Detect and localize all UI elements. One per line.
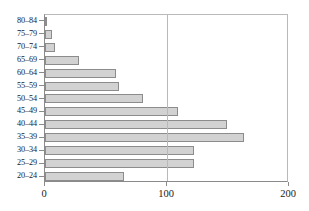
x-axis-tick: [288, 182, 289, 186]
y-axis-tick: [39, 20, 44, 21]
bar: [45, 146, 194, 155]
y-axis-label: 70–74: [17, 42, 37, 51]
bar: [45, 17, 47, 26]
y-axis-label: 20–24: [17, 171, 37, 180]
y-axis-label: 75–79: [17, 29, 37, 38]
gridline: [167, 15, 168, 181]
y-axis-tick: [39, 59, 44, 60]
y-axis-tick: [39, 163, 44, 164]
y-axis-label: 40–44: [17, 119, 37, 128]
y-axis-tick: [39, 46, 44, 47]
x-axis-label: 200: [280, 188, 296, 200]
y-axis-tick: [39, 176, 44, 177]
y-axis-label: 50–54: [17, 94, 37, 103]
y-axis-tick: [39, 98, 44, 99]
x-axis-label: 100: [158, 188, 174, 200]
bar-chart: 80–8475–7970–7465–6960–6455–5950–5445–49…: [0, 0, 309, 211]
bar: [45, 56, 79, 65]
bar: [45, 94, 143, 103]
bar: [45, 159, 194, 168]
bar: [45, 69, 116, 78]
bar: [45, 172, 124, 181]
y-axis-label: 45–49: [17, 106, 37, 115]
y-axis-label: 60–64: [17, 68, 37, 77]
bar: [45, 30, 52, 39]
bar: [45, 107, 178, 116]
y-axis-tick: [39, 124, 44, 125]
y-axis-tick: [39, 150, 44, 151]
x-axis-label: 0: [41, 188, 46, 200]
plot-area: [44, 14, 288, 182]
y-axis-tick: [39, 33, 44, 34]
bar: [45, 120, 227, 129]
y-axis-tick: [39, 111, 44, 112]
bars-layer: [45, 15, 287, 181]
y-axis-label: 80–84: [17, 16, 37, 25]
x-axis-tick: [44, 182, 45, 186]
y-axis-tick: [39, 72, 44, 73]
y-axis-tick: [39, 85, 44, 86]
bar: [45, 82, 119, 91]
x-axis-tick: [166, 182, 167, 186]
bar: [45, 43, 55, 52]
bar: [45, 133, 244, 142]
y-axis-tick: [39, 137, 44, 138]
y-axis-label: 55–59: [17, 81, 37, 90]
y-axis-label: 30–34: [17, 145, 37, 154]
y-axis-label: 65–69: [17, 55, 37, 64]
y-axis-label: 25–29: [17, 158, 37, 167]
y-axis-label: 35–39: [17, 132, 37, 141]
